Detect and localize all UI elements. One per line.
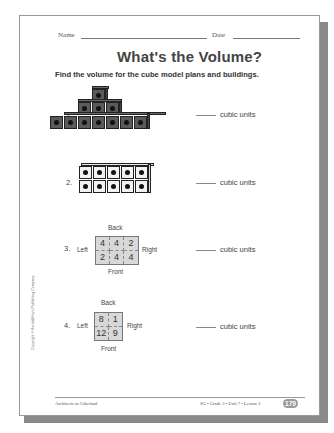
problem-4-cube-model-plan: 8 1 12 9 <box>94 312 123 341</box>
page-title: What's the Volume? <box>117 48 262 65</box>
date-label: Date <box>212 31 225 39</box>
plan-label-left: Left <box>77 322 88 329</box>
footer-unit-title: Architects in Cubeland <box>55 401 97 406</box>
plan-cell: 4 <box>124 251 138 265</box>
cube-top-face <box>64 112 166 115</box>
answer-blank[interactable] <box>196 115 216 116</box>
page-shadow-right <box>320 22 328 423</box>
problem-3-answer[interactable]: cubic units <box>196 245 255 254</box>
problem-2-answer[interactable]: cubic units <box>196 178 255 187</box>
plan-label-left: Left <box>77 246 88 253</box>
plan-label-back: Back <box>108 224 122 231</box>
plan-label-front: Front <box>108 268 123 275</box>
date-field[interactable] <box>233 38 300 39</box>
problem-2-cube-building <box>79 163 159 199</box>
instructions: Find the volume for the cube model plans… <box>55 70 259 79</box>
cube <box>120 116 133 129</box>
plan-cell: 4 <box>96 237 110 251</box>
problem-1-cube-building <box>78 86 188 138</box>
answer-blank[interactable] <box>196 250 216 251</box>
cube <box>50 116 63 129</box>
page-number-badge: 179 <box>283 399 298 408</box>
cube-side-face <box>147 113 150 129</box>
footer-lesson-info: SG • Grade 3 • Unit 7 • Lesson 3 <box>200 401 260 406</box>
answer-unit-label: cubic units <box>220 178 255 187</box>
plan-cell: 8 <box>95 313 109 327</box>
plan-cell: 4 <box>110 251 124 265</box>
answer-unit-label: cubic units <box>220 245 255 254</box>
plan-cell: 2 <box>96 251 110 265</box>
plan-cell: 4 <box>110 237 124 251</box>
cube <box>107 180 120 193</box>
plan-label-right: Right <box>142 246 157 253</box>
footer-divider <box>55 397 305 398</box>
answer-blank[interactable] <box>196 183 216 184</box>
problem-4-answer[interactable]: cubic units <box>196 322 255 331</box>
plan-label-right: Right <box>127 322 142 329</box>
plan-label-front: Front <box>101 345 116 352</box>
problem-4-number: 4. <box>64 321 70 330</box>
cube <box>79 166 92 179</box>
problem-2-number: 2. <box>66 178 72 187</box>
plan-cell: 2 <box>124 237 138 251</box>
plan-label-back: Back <box>101 299 115 306</box>
cube <box>135 180 148 193</box>
page-number: 179 <box>285 400 296 407</box>
copyright-notice: Copyright © Kendall/Hunt Publishing Comp… <box>31 275 35 350</box>
plan-cell: 1 <box>109 313 123 327</box>
problem-3-cube-model-plan: 4 4 2 2 4 4 <box>95 236 139 265</box>
cube <box>93 166 106 179</box>
answer-unit-label: cubic units <box>220 110 255 119</box>
cube <box>64 116 77 129</box>
cube <box>107 166 120 179</box>
cube <box>134 116 147 129</box>
problem-1-answer[interactable]: cubic units <box>196 110 255 119</box>
cube <box>78 116 91 129</box>
answer-blank[interactable] <box>196 327 216 328</box>
problem-3-number: 3. <box>64 244 70 253</box>
name-label: Name <box>58 31 75 39</box>
cube <box>93 180 106 193</box>
answer-unit-label: cubic units <box>220 322 255 331</box>
cube <box>92 116 105 129</box>
name-field[interactable] <box>81 38 207 39</box>
plan-cell: 9 <box>109 327 123 341</box>
cube <box>79 180 92 193</box>
cube-side-face <box>148 164 151 193</box>
cube <box>135 166 148 179</box>
cube <box>106 116 119 129</box>
plan-cell: 12 <box>95 327 109 341</box>
cube <box>121 166 134 179</box>
page-shadow-bottom <box>24 416 328 423</box>
cube <box>121 180 134 193</box>
